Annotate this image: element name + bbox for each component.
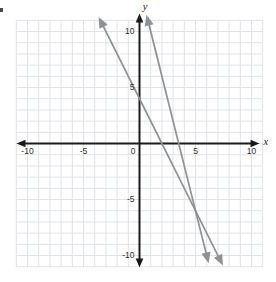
graph-panel: -10-50510105-5-10yx: [0, 0, 276, 282]
y-tick-label--10: -10: [122, 250, 135, 260]
corner-artifact-mark: [0, 8, 3, 12]
y-axis-up-arrow-icon: [136, 14, 144, 23]
line-2: [148, 20, 208, 259]
x-tick-label-0: 0: [131, 146, 136, 156]
y-tick-label-10: 10: [125, 26, 135, 36]
y-tick-label-5: 5: [130, 82, 135, 92]
y-axis-down-arrow-icon: [136, 259, 144, 268]
x-tick-label-5: 5: [193, 146, 198, 156]
x-tick-label-10: 10: [247, 146, 257, 156]
x-tick-label--5: -5: [80, 146, 88, 156]
y-tick-label--5: -5: [127, 194, 135, 204]
graph-svg: -10-50510105-5-10yx: [0, 0, 276, 282]
y-axis-label: y: [142, 1, 148, 12]
x-axis-label: x: [263, 136, 269, 147]
axes: [17, 14, 260, 268]
line-2-lower-arrow-icon: [202, 252, 211, 264]
line-1: [101, 21, 221, 261]
x-tick-label--10: -10: [21, 146, 34, 156]
series-line-2: [145, 15, 211, 264]
